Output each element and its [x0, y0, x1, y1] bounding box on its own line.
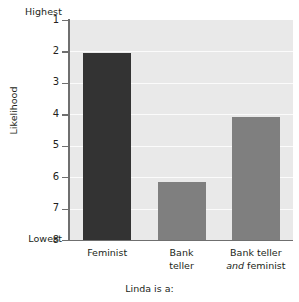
- y-axis-tick-label: 8: [43, 235, 59, 245]
- y-axis-tick: [62, 146, 68, 147]
- x-axis-title: Linda is a:: [0, 283, 299, 294]
- y-axis-tick-label: 1: [43, 15, 59, 25]
- y-axis-tick: [62, 114, 68, 115]
- y-axis-tick-label: 5: [43, 140, 59, 150]
- x-axis-line: [68, 240, 293, 242]
- y-axis-tick-label: 6: [43, 172, 59, 182]
- bar-1: [83, 53, 131, 240]
- y-axis-title: Likelihood: [8, 75, 19, 147]
- y-axis-tick: [62, 20, 68, 21]
- bar-3: [232, 117, 280, 240]
- y-axis-tick-label: 4: [43, 109, 59, 119]
- y-axis-tick: [62, 177, 68, 178]
- y-axis-tick-label: 7: [43, 203, 59, 213]
- y-axis-tick: [62, 83, 68, 84]
- y-axis-tick: [62, 209, 68, 210]
- category-label-line1: Bank teller: [206, 247, 299, 260]
- category-label-line2: and feminist: [206, 260, 299, 273]
- plot-area: [70, 20, 293, 240]
- y-axis-tick-label: 2: [43, 46, 59, 56]
- bar-2: [158, 182, 206, 240]
- y-axis-tick: [62, 51, 68, 52]
- y-axis-tick-label: 3: [43, 77, 59, 87]
- category-label-emphasis: and: [226, 260, 244, 271]
- bar-chart: Highest Lowest Likelihood Linda is a: 12…: [0, 0, 299, 302]
- y-axis-tick: [62, 240, 68, 241]
- y-axis-line: [68, 19, 70, 241]
- x-axis-category-label: Bank tellerand feminist: [206, 247, 299, 272]
